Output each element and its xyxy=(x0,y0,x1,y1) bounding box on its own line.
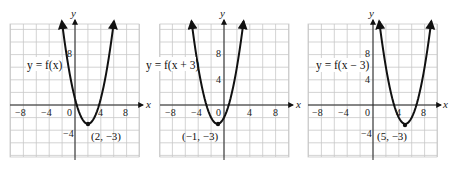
function-label-3: y = f(x − 3) xyxy=(316,59,369,72)
vertex-label-1: (2, −3) xyxy=(91,130,121,143)
y-axis-label-2: y xyxy=(219,7,225,19)
y-tick-3-m4: −4 xyxy=(361,128,372,139)
y-tick-3-4: 4 xyxy=(365,74,370,85)
y-axis-label-3: y xyxy=(368,7,374,19)
x-axis-label-2: x xyxy=(295,98,301,110)
function-label-2: y = f(x + 3) xyxy=(146,59,199,72)
y-tick-2-4: 4 xyxy=(216,74,221,85)
vertex-point-2 xyxy=(216,122,220,126)
y-tick-3-8: 8 xyxy=(365,48,370,59)
y-axis-label-1: y xyxy=(70,7,76,19)
x-tick-3-m8: −8 xyxy=(312,107,323,118)
x-axis-label-1: x xyxy=(145,98,151,110)
y-tick-1-m4: −4 xyxy=(63,128,74,139)
vertex-point-1 xyxy=(86,122,90,126)
x-tick-2-m8: −8 xyxy=(165,107,176,118)
x-tick-1-0: 0 xyxy=(67,107,72,118)
function-label-1: y = f(x) xyxy=(27,59,62,72)
vertex-label-3: (5, −3) xyxy=(377,130,407,143)
graph-2: x y −8 −4 0 4 8 8 4 y = f(x + 3) (−1, −3… xyxy=(146,7,301,160)
x-tick-3-0: 0 xyxy=(365,107,370,118)
x-tick-2-0: 0 xyxy=(216,107,221,118)
y-tick-2-8: 8 xyxy=(216,48,221,59)
x-tick-3-8: 8 xyxy=(421,107,426,118)
x-axis-label-3: x xyxy=(442,98,448,110)
x-tick-2-4: 4 xyxy=(247,107,252,118)
x-tick-2-8: 8 xyxy=(273,107,278,118)
x-tick-2-m4: −4 xyxy=(191,107,202,118)
vertex-label-2: (−1, −3) xyxy=(182,130,219,143)
figure: x y −8 −4 0 4 8 8 −4 y = f(x) (2, −3) x … xyxy=(0,0,453,171)
x-tick-1-m8: −8 xyxy=(15,107,26,118)
x-tick-1-m4: −4 xyxy=(41,107,52,118)
x-tick-1-8: 8 xyxy=(123,107,128,118)
x-tick-3-m4: −4 xyxy=(338,107,349,118)
graph-3: x y −8 −4 0 4 8 8 4 −4 y = f(x − 3) (5, … xyxy=(308,7,448,160)
graph-1: x y −8 −4 0 4 8 8 −4 y = f(x) (2, −3) xyxy=(10,7,151,160)
vertex-point-3 xyxy=(403,123,407,127)
